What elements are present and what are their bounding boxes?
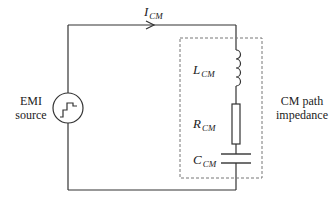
capacitor-label: CCM	[193, 152, 216, 169]
impedance-label-line2: impedance	[272, 108, 332, 122]
emi-source-icon	[53, 93, 83, 123]
source-label: EMI source	[14, 94, 48, 122]
current-label: ICM	[144, 4, 163, 21]
impedance-label-line1: CM path	[272, 94, 332, 108]
source-label-line2: source	[14, 108, 48, 122]
inductor-icon	[236, 50, 241, 86]
inductor-label: LCM	[193, 62, 215, 79]
resistor-icon	[232, 104, 240, 144]
resistor-label: RCM	[193, 116, 215, 133]
source-label-line1: EMI	[14, 94, 48, 108]
impedance-label: CM path impedance	[272, 94, 332, 122]
